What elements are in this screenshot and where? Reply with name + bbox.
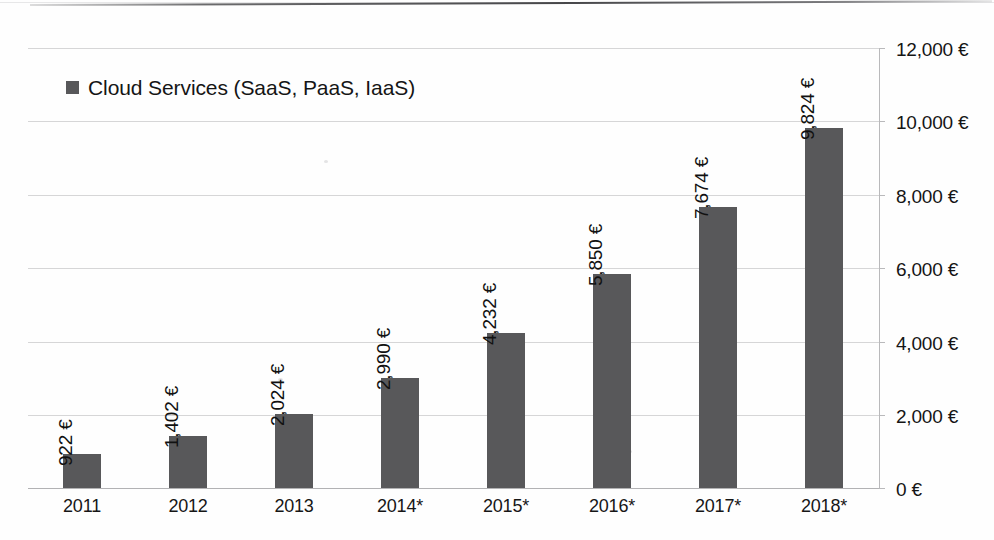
category-label-2015: 2015* — [453, 497, 559, 515]
bar-value-2018: 9,824 € — [798, 78, 817, 140]
bar-value-2013: 2,024 € — [268, 364, 287, 426]
bar-2016[interactable] — [593, 274, 631, 488]
chart-legend[interactable]: Cloud Services (SaaS, PaaS, IaaS) — [66, 76, 415, 99]
bar-chart: 12,000 € 10,000 € 8,000 € 6,000 € 4,000 … — [0, 0, 994, 540]
bar-2018[interactable] — [805, 128, 843, 488]
bar-2017[interactable] — [699, 207, 737, 488]
category-label-2011: 2011 — [29, 497, 135, 515]
bar-2014[interactable] — [381, 378, 419, 488]
legend-label-cloud-services: Cloud Services (SaaS, PaaS, IaaS) — [88, 76, 415, 99]
bar-value-2014: 2,990 € — [374, 328, 393, 390]
category-label-2013: 2013 — [241, 497, 347, 515]
bar-value-2012: 1,402 € — [162, 386, 181, 448]
category-label-2012: 2012 — [135, 497, 241, 515]
category-label-2014: 2014* — [347, 497, 453, 515]
bar-value-2017: 7,674 € — [692, 157, 711, 219]
bar-value-2016: 5,850 € — [586, 224, 605, 286]
category-label-2017: 2017* — [665, 497, 771, 515]
bar-2015[interactable] — [487, 333, 525, 488]
bar-value-2015: 4,232 € — [480, 283, 499, 345]
bar-value-2011: 922 € — [56, 419, 75, 466]
legend-swatch-icon — [66, 81, 79, 94]
category-label-2018: 2018* — [771, 497, 877, 515]
category-label-2016: 2016* — [559, 497, 665, 515]
